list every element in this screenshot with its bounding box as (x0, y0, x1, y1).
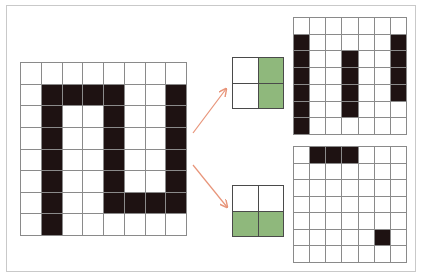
arrows-layer (0, 0, 421, 278)
arrow-to-top-kernel (193, 89, 226, 133)
arrow-to-bottom-kernel (193, 165, 227, 207)
